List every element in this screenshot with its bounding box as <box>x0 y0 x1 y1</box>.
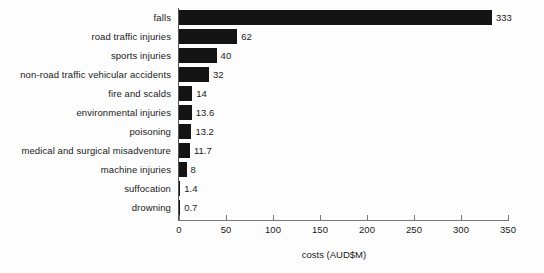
bar-row: 11.7 <box>179 143 508 158</box>
bar <box>179 67 209 82</box>
category-label: medical and surgical misadventure <box>0 146 171 156</box>
bar-row: 13.2 <box>179 124 508 139</box>
x-axis-tick-label: 250 <box>406 224 422 235</box>
bar-row: 13.6 <box>179 105 508 120</box>
bar-value-label: 32 <box>213 70 224 80</box>
bar-value-label: 13.6 <box>196 108 215 118</box>
category-label: machine injuries <box>0 165 171 175</box>
x-axis-title: costs (AUD$M) <box>0 249 544 260</box>
bar-value-label: 11.7 <box>194 146 212 156</box>
x-axis-tick-label: 150 <box>312 224 328 235</box>
bar-row: 0.7 <box>179 200 508 215</box>
y-axis-line <box>178 8 179 220</box>
x-axis-tick-label: 50 <box>221 224 232 235</box>
x-axis-tick-label: 100 <box>265 224 281 235</box>
x-axis-tick-label: 350 <box>500 224 516 235</box>
bar-row: 8 <box>179 162 508 177</box>
bar-row: 40 <box>179 48 508 63</box>
bar-row: 333 <box>179 10 508 25</box>
category-label: suffocation <box>0 184 171 194</box>
category-label: environmental injuries <box>0 108 171 118</box>
bar <box>179 48 217 63</box>
bar-row: 14 <box>179 86 508 101</box>
x-axis-tick <box>226 215 227 220</box>
bar <box>179 162 187 177</box>
x-axis-tick <box>320 215 321 220</box>
category-label: fire and scalds <box>0 89 171 99</box>
category-axis-labels: fallsroad traffic injuriessports injurie… <box>0 10 175 219</box>
bar <box>179 143 190 158</box>
bar <box>179 10 492 25</box>
bar <box>179 200 180 215</box>
bar <box>179 29 237 44</box>
x-axis-tick <box>179 215 180 220</box>
x-axis-line <box>178 220 509 221</box>
bar <box>179 105 192 120</box>
bar <box>179 181 180 196</box>
category-label: poisoning <box>0 127 171 137</box>
x-axis-tick <box>508 215 509 220</box>
category-label: sports injuries <box>0 51 171 61</box>
bar-value-label: 1.4 <box>184 184 197 194</box>
x-axis-tick-label: 0 <box>176 224 181 235</box>
plot-area: 3336240321413.613.211.781.40.7 <box>179 10 508 219</box>
x-axis-tick <box>461 215 462 220</box>
bar-row: 62 <box>179 29 508 44</box>
bar-value-label: 14 <box>196 89 207 99</box>
bar-chart: fallsroad traffic injuriessports injurie… <box>0 0 544 273</box>
category-label: drowning <box>0 203 171 213</box>
x-axis-tick-label: 200 <box>359 224 375 235</box>
bar-value-label: 8 <box>191 165 196 175</box>
x-axis-title-text: costs (AUD$M) <box>302 249 366 260</box>
bar-row: 1.4 <box>179 181 508 196</box>
category-label: non-road traffic vehicular accidents <box>0 70 171 80</box>
bar <box>179 86 192 101</box>
bar-value-label: 0.7 <box>184 203 197 213</box>
bar-value-label: 333 <box>496 13 512 23</box>
x-axis-tick-label: 300 <box>453 224 469 235</box>
category-label: falls <box>0 13 171 23</box>
bar-value-label: 13.2 <box>195 127 214 137</box>
bar-value-label: 62 <box>241 32 252 42</box>
x-axis-tick <box>367 215 368 220</box>
bar-row: 32 <box>179 67 508 82</box>
bar <box>179 124 191 139</box>
x-axis-tick <box>273 215 274 220</box>
category-label: road traffic injuries <box>0 32 171 42</box>
bar-value-label: 40 <box>221 51 232 61</box>
x-axis-tick <box>414 215 415 220</box>
